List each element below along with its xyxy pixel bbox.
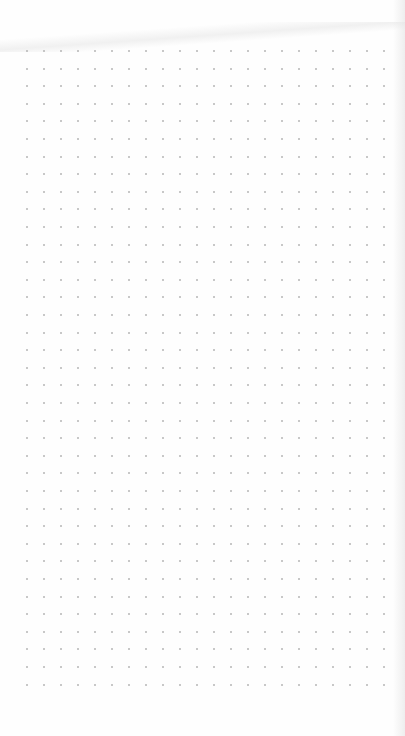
grid-dot [281,226,283,228]
grid-dot [349,296,351,298]
grid-dot [111,138,113,140]
grid-dot [366,314,368,316]
grid-dot [26,525,28,527]
grid-dot [128,508,130,510]
grid-dot [366,472,368,474]
grid-dot [179,103,181,105]
grid-dot [281,208,283,210]
grid-dot [315,85,317,87]
grid-dot [94,226,96,228]
grid-dot [196,261,198,263]
grid-dot [128,455,130,457]
grid-dot [60,332,62,334]
grid-dot [77,613,79,615]
grid-dot [366,402,368,404]
grid-dot [43,138,45,140]
grid-dot [162,349,164,351]
grid-dot [128,156,130,158]
grid-dot [315,384,317,386]
grid-dot [281,648,283,650]
grid-dot [298,525,300,527]
grid-dot [281,402,283,404]
grid-dot [128,384,130,386]
grid-dot [349,314,351,316]
grid-dot [264,596,266,598]
grid-dot [43,244,45,246]
grid-dot [247,332,249,334]
grid-dot [298,578,300,580]
grid-dot [111,384,113,386]
grid-dot [281,296,283,298]
grid-dot [213,384,215,386]
grid-dot [94,349,96,351]
grid-dot [26,50,28,52]
grid-dot [230,543,232,545]
grid-dot [383,684,385,686]
grid-dot [247,402,249,404]
grid-dot [332,367,334,369]
grid-dot [43,543,45,545]
grid-dot [26,68,28,70]
grid-dot [383,455,385,457]
grid-dot [349,543,351,545]
grid-dot [366,508,368,510]
grid-dot [332,332,334,334]
grid-dot [60,384,62,386]
grid-dot [26,543,28,545]
grid-dot [94,85,96,87]
grid-dot [383,349,385,351]
grid-dot [128,666,130,668]
grid-dot [128,367,130,369]
grid-dot [43,631,45,633]
grid-dot [281,191,283,193]
grid-dot [281,631,283,633]
grid-dot [77,244,79,246]
grid-dot [298,367,300,369]
grid-dot [315,103,317,105]
grid-dot [179,596,181,598]
grid-dot [94,613,96,615]
grid-dot [349,191,351,193]
grid-dot [366,578,368,580]
grid-dot [298,226,300,228]
grid-dot [60,50,62,52]
grid-dot [332,50,334,52]
grid-dot [298,261,300,263]
grid-dot [43,578,45,580]
grid-dot [281,50,283,52]
grid-dot [366,208,368,210]
grid-dot [43,85,45,87]
grid-dot [247,156,249,158]
grid-dot [298,420,300,422]
grid-dot [281,596,283,598]
grid-dot [281,472,283,474]
grid-dot [179,508,181,510]
grid-dot [264,384,266,386]
grid-dot [281,455,283,457]
grid-dot [60,367,62,369]
grid-dot [162,296,164,298]
grid-dot [179,226,181,228]
grid-dot [264,684,266,686]
grid-dot [332,560,334,562]
grid-dot [145,631,147,633]
grid-dot [77,402,79,404]
grid-dot [349,437,351,439]
grid-dot [26,367,28,369]
grid-dot [77,525,79,527]
grid-dot [332,455,334,457]
grid-dot [60,472,62,474]
grid-dot [179,560,181,562]
grid-dot [264,296,266,298]
grid-dot [111,455,113,457]
grid-dot [315,332,317,334]
grid-dot [332,103,334,105]
grid-dot [179,68,181,70]
grid-dot [332,596,334,598]
grid-dot [60,103,62,105]
grid-dot [349,208,351,210]
grid-dot [60,173,62,175]
grid-dot [247,508,249,510]
grid-dot [247,226,249,228]
grid-dot [145,560,147,562]
